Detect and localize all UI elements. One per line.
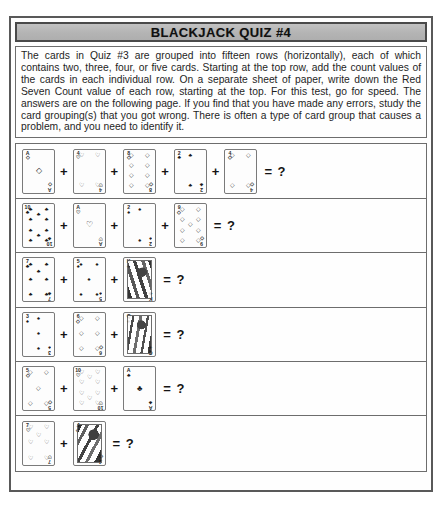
page-title: BLACKJACK QUIZ #4 bbox=[151, 25, 291, 40]
card-pip: ♡ bbox=[44, 441, 49, 447]
card-pip: ♡ bbox=[36, 433, 41, 439]
card-pips: ♠♠ bbox=[127, 207, 152, 243]
card-pip: ◇ bbox=[180, 228, 185, 234]
card-pip: ♡ bbox=[95, 392, 100, 398]
playing-card: A◇A◇◇ bbox=[22, 149, 55, 194]
plus-operator: + bbox=[60, 164, 68, 179]
card-pip: ♣ bbox=[45, 207, 49, 213]
card-pip: ♣ bbox=[45, 217, 49, 223]
card-pips: ♣ bbox=[127, 371, 152, 407]
card-pip: ♡ bbox=[79, 370, 84, 376]
playing-card: 7♣7♣♣♣♣♣♣♣♣ bbox=[22, 257, 55, 302]
card-pip: ◇ bbox=[129, 183, 134, 189]
playing-card: 5♠5♠♠♠♠♠♠ bbox=[73, 257, 106, 302]
equals-question: = ? bbox=[163, 327, 185, 342]
card-pip: ♣ bbox=[45, 262, 49, 268]
plus-operator: + bbox=[60, 436, 68, 451]
card-pips: ♣♣ bbox=[178, 153, 203, 189]
card-pip: ♡ bbox=[95, 380, 100, 386]
card-pip: ◇ bbox=[95, 347, 100, 353]
card-pip: ♣ bbox=[37, 212, 41, 218]
quiz-row: A◇A◇◇+4♡4♡♡♡♡♡+8◇8◇◇◇◇◇◇◇◇◇+2♣2♣♣♣+4◇4◇◇… bbox=[16, 144, 426, 198]
card-pips: ♣♣♣♣♣♣♣ bbox=[26, 262, 51, 298]
card-pip: ♡ bbox=[95, 183, 100, 189]
plus-operator: + bbox=[111, 381, 119, 396]
card-pip: ◇ bbox=[95, 316, 100, 322]
equals-question: = ? bbox=[163, 272, 185, 287]
playing-card: 10♡10♡♡♡♡♡♡♡♡♡♡♡ bbox=[73, 366, 106, 411]
card-pip: ♡ bbox=[79, 380, 84, 386]
plus-operator: + bbox=[60, 272, 68, 287]
intro-text: The cards in Quiz #3 are grouped into fi… bbox=[21, 50, 421, 133]
court-card-illustration bbox=[127, 260, 152, 299]
card-pip: ♡ bbox=[95, 402, 100, 408]
playing-card: 3♠3♠♠♠♠ bbox=[22, 312, 55, 357]
card-pips: ◇◇◇◇◇◇◇◇◇ bbox=[178, 207, 203, 243]
court-card-illustration bbox=[127, 315, 152, 354]
plus-operator: + bbox=[60, 381, 68, 396]
card-pip: ♣ bbox=[45, 277, 49, 283]
card-pip: ♣ bbox=[29, 228, 33, 234]
card-pip: ♠ bbox=[138, 208, 141, 214]
card-pip: ◇ bbox=[145, 183, 150, 189]
playing-card: 2♠2♠♠♠ bbox=[123, 203, 156, 248]
card-pip: ♠ bbox=[80, 292, 83, 298]
card-pip: ◇ bbox=[230, 153, 235, 159]
equals-question: = ? bbox=[264, 164, 286, 179]
card-pip: ◇ bbox=[145, 173, 150, 179]
card-pips: ♡♡♡♡♡♡♡♡♡♡ bbox=[77, 371, 102, 407]
playing-card: 9◇9◇◇◇◇◇◇◇◇◇◇ bbox=[174, 203, 207, 248]
card-pip: ◇ bbox=[79, 347, 84, 353]
card-pips: ♡♡♡♡ bbox=[77, 153, 102, 189]
card-pip: ♡ bbox=[79, 402, 84, 408]
card-pip: ◇ bbox=[196, 217, 201, 223]
playing-card: Q♠Q♠ bbox=[123, 312, 156, 357]
quiz-row: 10♣10♣♣♣♣♣♣♣♣♣♣♣+A♡A♡♡+2♠2♠♠♠+9◇9◇◇◇◇◇◇◇… bbox=[16, 199, 426, 253]
card-pips: ♡ bbox=[77, 207, 102, 243]
plus-operator: + bbox=[111, 272, 119, 287]
card-pip: ♡ bbox=[95, 370, 100, 376]
card-pips: ◇◇◇◇◇◇ bbox=[77, 316, 102, 352]
card-pip: ♣ bbox=[45, 238, 49, 244]
court-card-illustration bbox=[77, 424, 102, 463]
quiz-page: BLACKJACK QUIZ #4 The cards in Quiz #3 a… bbox=[9, 16, 433, 492]
card-pip: ◇ bbox=[230, 183, 235, 189]
card-pip: ◇ bbox=[180, 238, 185, 244]
card-pip: ♡ bbox=[87, 397, 92, 403]
plus-operator: + bbox=[60, 218, 68, 233]
card-pip: ♡ bbox=[95, 153, 100, 159]
playing-card: 2♣2♣♣♣ bbox=[174, 149, 207, 194]
card-pip: ◇ bbox=[196, 207, 201, 213]
card-pip: ♡ bbox=[44, 456, 49, 462]
playing-card: 10♣10♣♣♣♣♣♣♣♣♣♣♣ bbox=[22, 203, 55, 248]
card-pips: ♡♡♡♡♡♡♡ bbox=[26, 425, 51, 461]
card-pip: ♠ bbox=[37, 316, 40, 322]
plus-operator: + bbox=[111, 218, 119, 233]
card-pip: ♣ bbox=[37, 233, 41, 239]
card-pip: ♡ bbox=[79, 153, 84, 159]
card-pip: ♣ bbox=[29, 207, 33, 213]
card-pip: ◇ bbox=[246, 183, 251, 189]
card-pip: ◇ bbox=[145, 163, 150, 169]
card-pip: ♡ bbox=[28, 441, 33, 447]
card-pip: ◇ bbox=[95, 331, 100, 337]
card-pip: ◇ bbox=[28, 401, 33, 407]
card-pip: ♠ bbox=[37, 331, 40, 337]
card-pip: ♣ bbox=[29, 277, 33, 283]
card-pip: ♡ bbox=[86, 221, 93, 229]
card-pip: ◇ bbox=[129, 163, 134, 169]
playing-card: 5◇5◇◇◇◇◇◇ bbox=[22, 366, 55, 411]
equals-question: = ? bbox=[214, 218, 236, 233]
card-pip: ◇ bbox=[188, 223, 193, 229]
quiz-rows: A◇A◇◇+4♡4♡♡♡♡♡+8◇8◇◇◇◇◇◇◇◇◇+2♣2♣♣♣+4◇4◇◇… bbox=[15, 143, 427, 471]
playing-card: K♣K♣ bbox=[123, 257, 156, 302]
playing-card: 4♡4♡♡♡♡♡ bbox=[73, 149, 106, 194]
playing-card: A♣A♣♣ bbox=[123, 366, 156, 411]
card-pip: ♠ bbox=[37, 347, 40, 353]
card-pip: ◇ bbox=[129, 173, 134, 179]
quiz-row: 7♡7♡♡♡♡♡♡♡♡+J◇J◇= ? bbox=[16, 416, 426, 470]
playing-card: 4◇4◇◇◇◇◇ bbox=[224, 149, 257, 194]
card-pip: ◇ bbox=[36, 386, 41, 392]
card-pip: ♣ bbox=[45, 292, 49, 298]
plus-operator: + bbox=[161, 164, 169, 179]
